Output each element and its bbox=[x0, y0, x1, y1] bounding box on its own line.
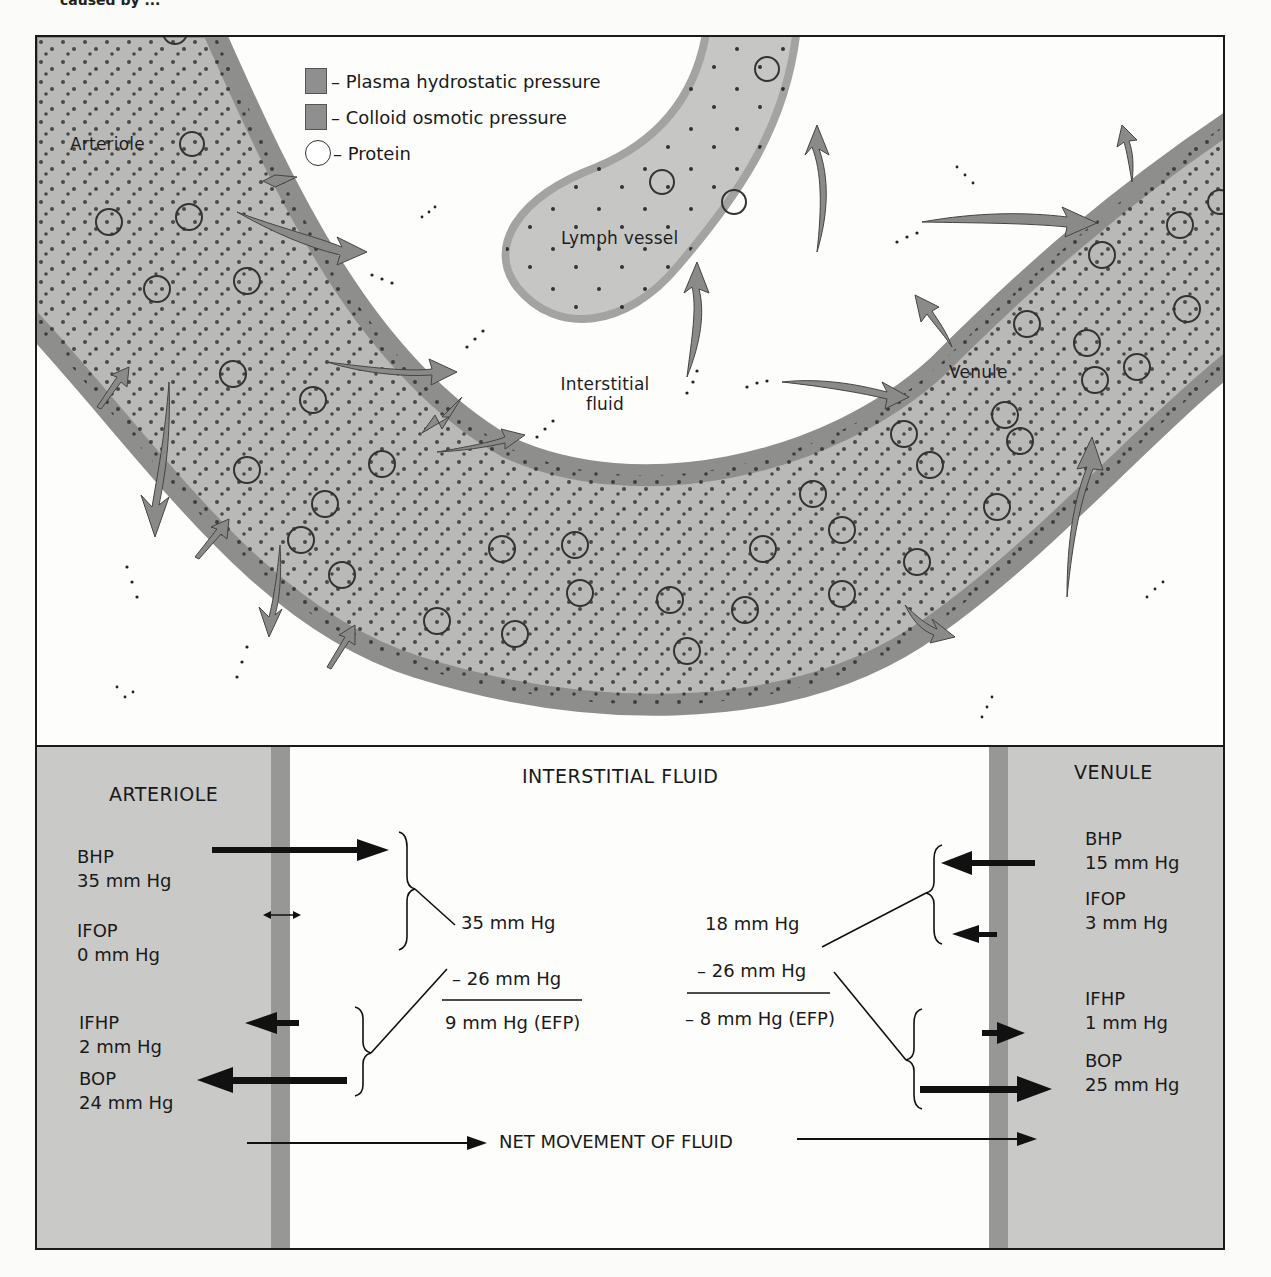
arrow-in-icon bbox=[922, 207, 1097, 237]
arteriole-label: Arteriole bbox=[70, 135, 145, 155]
pressure-value: 2 mm Hg bbox=[79, 1035, 162, 1059]
caption-fragment: caused by ... bbox=[60, 0, 160, 8]
arrow-right-icon bbox=[982, 1022, 1025, 1044]
pressure-panel: ARTERIOLE INTERSTITIAL FLUID VENULE BHP … bbox=[35, 745, 1225, 1250]
legend-item-protein: – Protein bbox=[305, 135, 601, 171]
leader-line bbox=[834, 972, 906, 1060]
arrow-in-icon bbox=[782, 381, 909, 409]
arrow-out-icon bbox=[1117, 125, 1137, 182]
square-swatch-icon bbox=[305, 68, 327, 94]
net-movement-arrow-right-segment bbox=[797, 1132, 1037, 1146]
legend: – Plasma hydrostatic pressure – Colloid … bbox=[305, 63, 601, 171]
venule-ifhp: IFHP 1 mm Hg bbox=[1085, 987, 1168, 1035]
arrow-in-icon bbox=[684, 262, 709, 377]
pressure-value: 15 mm Hg bbox=[1085, 851, 1179, 875]
arteriole-inward-sum: – 26 mm Hg bbox=[452, 967, 561, 991]
leader-line bbox=[822, 893, 926, 947]
arrow-left-icon bbox=[941, 851, 1035, 875]
leader-line bbox=[415, 889, 455, 925]
arrow-right-icon bbox=[920, 1076, 1052, 1102]
pressure-name: IFHP bbox=[79, 1011, 162, 1035]
pressure-value: 1 mm Hg bbox=[1085, 1011, 1168, 1035]
venule-bop: BOP 25 mm Hg bbox=[1085, 1049, 1179, 1097]
pressure-value: 0 mm Hg bbox=[77, 943, 160, 967]
brace-outward-arteriole bbox=[399, 832, 415, 950]
venule-efp-result: – 8 mm Hg (EFP) bbox=[685, 1007, 835, 1031]
arrow-left-icon bbox=[245, 1012, 299, 1034]
interstitial-fluid-header: INTERSTITIAL FLUID bbox=[522, 765, 718, 787]
arrow-in-icon bbox=[805, 125, 829, 252]
double-arrow-icon bbox=[263, 911, 301, 919]
arteriole-ifhp: IFHP 2 mm Hg bbox=[79, 1011, 162, 1059]
arrow-right-icon bbox=[212, 839, 389, 861]
pressure-name: IFOP bbox=[77, 919, 160, 943]
arrow-out-icon bbox=[915, 295, 952, 347]
net-movement-label: NET MOVEMENT OF FLUID bbox=[499, 1130, 733, 1154]
legend-label: – Plasma hydrostatic pressure bbox=[331, 71, 601, 92]
interstitial-fluid-label: Interstitial fluid bbox=[555, 375, 655, 414]
pressure-value: 24 mm Hg bbox=[79, 1091, 173, 1115]
legend-item-plasma-hydrostatic: – Plasma hydrostatic pressure bbox=[305, 63, 601, 99]
pressure-name: BOP bbox=[1085, 1049, 1179, 1073]
capillary-illustration: Arteriole Lymph vessel Interstitial flui… bbox=[35, 35, 1225, 745]
interstitial-fluid-label-line1: Interstitial bbox=[555, 375, 655, 395]
pressure-name: IFOP bbox=[1085, 887, 1168, 911]
brace-inward-venule bbox=[906, 1009, 922, 1109]
arteriole-bhp: BHP 35 mm Hg bbox=[77, 845, 171, 893]
circle-outline-icon bbox=[305, 140, 331, 166]
venule-ifop: IFOP 3 mm Hg bbox=[1085, 887, 1168, 935]
venule-header: VENULE bbox=[1074, 761, 1153, 783]
arrow-left-icon bbox=[197, 1067, 347, 1093]
leader-line bbox=[371, 969, 447, 1053]
venule-bhp: BHP 15 mm Hg bbox=[1085, 827, 1179, 875]
brace-inward-arteriole bbox=[355, 1007, 371, 1096]
arteriole-efp-result: 9 mm Hg (EFP) bbox=[445, 1011, 580, 1035]
pressure-name: IFHP bbox=[1085, 987, 1168, 1011]
net-movement-arrow-left-segment bbox=[247, 1136, 487, 1150]
pressure-value: 35 mm Hg bbox=[77, 869, 171, 893]
brace-outward-venule bbox=[926, 845, 942, 944]
blood-vessel bbox=[37, 37, 1225, 705]
pressure-name: BOP bbox=[79, 1067, 173, 1091]
arteriole-outward-sum: 35 mm Hg bbox=[461, 911, 555, 935]
pressure-value: 25 mm Hg bbox=[1085, 1073, 1179, 1097]
interstitial-fluid-label-line2: fluid bbox=[555, 395, 655, 415]
pressure-arrows-diagram bbox=[37, 747, 1225, 1250]
pressure-name: BHP bbox=[77, 845, 171, 869]
venule-outward-sum: 18 mm Hg bbox=[705, 912, 799, 936]
legend-label: – Protein bbox=[333, 143, 411, 164]
arteriole-ifop: IFOP 0 mm Hg bbox=[77, 919, 160, 967]
venule-inward-sum: – 26 mm Hg bbox=[697, 959, 806, 983]
venule-label: Venule bbox=[949, 363, 1008, 383]
arteriole-bop: BOP 24 mm Hg bbox=[79, 1067, 173, 1115]
legend-label: – Colloid osmotic pressure bbox=[331, 107, 567, 128]
pressure-name: BHP bbox=[1085, 827, 1179, 851]
pressure-value: 3 mm Hg bbox=[1085, 911, 1168, 935]
legend-item-colloid-osmotic: – Colloid osmotic pressure bbox=[305, 99, 601, 135]
capillary-exchange-figure: Arteriole Lymph vessel Interstitial flui… bbox=[35, 35, 1225, 1250]
square-swatch-icon bbox=[305, 104, 327, 130]
arrow-left-icon bbox=[952, 925, 997, 943]
arteriole-header: ARTERIOLE bbox=[109, 783, 218, 805]
lymph-vessel-label: Lymph vessel bbox=[561, 229, 678, 249]
